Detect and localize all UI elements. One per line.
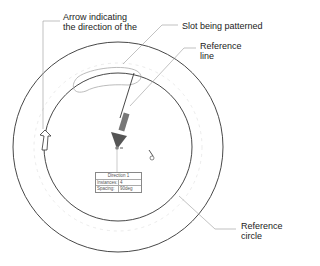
instances-label: Instances: xyxy=(96,180,119,186)
callout-arrow-direction-line2: the direction of the xyxy=(63,22,137,32)
callout-reference-circle: Reference circle xyxy=(241,221,283,241)
spacing-label: Spacing: xyxy=(96,186,119,192)
leader-arrow-direction xyxy=(43,21,60,129)
slot-outline xyxy=(73,67,141,92)
callout-arrow-direction: Arrow indicating the direction of the xyxy=(63,12,137,32)
callout-reference-circle-line1: Reference xyxy=(241,221,283,231)
cursor-icon xyxy=(149,150,154,160)
callout-reference-circle-line2: circle xyxy=(241,231,283,241)
center-point xyxy=(115,146,119,150)
callout-reference-line-line2: line xyxy=(200,51,242,61)
leader-reference-line xyxy=(130,48,196,106)
callout-slot: Slot being patterned xyxy=(182,21,263,31)
callout-arrow-direction-line1: Arrow indicating xyxy=(63,12,137,22)
reference-line xyxy=(120,73,134,118)
direction-hollow-arrow-icon xyxy=(40,130,51,150)
spacing-value[interactable]: 90deg xyxy=(119,186,141,192)
direction-arrow-shaft xyxy=(118,113,129,132)
callout-reference-line-line1: Reference xyxy=(200,41,242,51)
callout-reference-line: Reference line xyxy=(200,41,242,61)
direction-dialog: Direction 1 Instances: 4 Spacing: 90deg xyxy=(95,172,142,193)
leader-reference-circle xyxy=(179,196,236,229)
instances-value[interactable]: 4 xyxy=(119,180,141,186)
direction-arrow-head xyxy=(111,132,127,149)
dialog-row-spacing: Spacing: 90deg xyxy=(96,186,141,192)
